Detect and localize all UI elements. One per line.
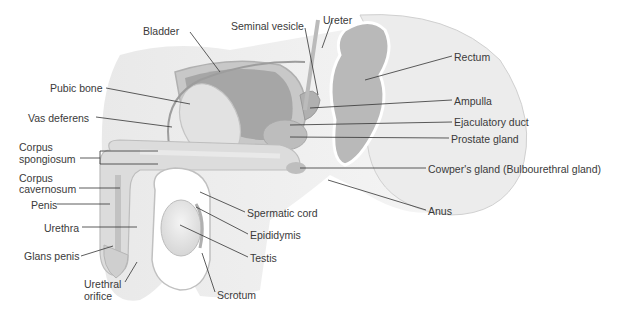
anatomy-illustration: [0, 0, 617, 314]
anatomy-diagram: Bladder Seminal vesicle Ureter Rectum Pu…: [0, 0, 617, 314]
label-rectum: Rectum: [454, 51, 490, 63]
label-ampulla: Ampulla: [454, 95, 492, 107]
label-epididymis: Epididymis: [250, 229, 301, 241]
label-scrotum: Scrotum: [217, 289, 256, 301]
label-corpus-spongiosum-line2: spongiosum: [19, 153, 76, 165]
label-anus: Anus: [428, 205, 452, 217]
testis-shape: [152, 168, 210, 290]
label-ureter: Ureter: [323, 14, 352, 26]
label-vas-deferens: Vas deferens: [28, 112, 89, 124]
label-spermatic-cord: Spermatic cord: [247, 207, 318, 219]
label-cowpers-gland: Cowper's gland (Bulbourethral gland): [428, 163, 601, 175]
label-glans-penis: Glans penis: [24, 250, 79, 262]
label-corpus-cavernosum-line2: cavernosum: [19, 183, 76, 195]
label-penis: Penis: [31, 199, 57, 211]
label-pubic-bone: Pubic bone: [50, 82, 103, 94]
label-urethral-orifice-line2: orifice: [84, 290, 112, 302]
label-bladder: Bladder: [143, 25, 179, 37]
label-prostate-gland: Prostate gland: [451, 133, 519, 145]
label-corpus-spongiosum-line1: Corpus: [19, 141, 53, 153]
label-testis: Testis: [250, 252, 277, 264]
label-urethral-orifice-line1: Urethral: [84, 278, 121, 290]
label-ejaculatory-duct: Ejaculatory duct: [454, 116, 529, 128]
label-seminal-vesicle: Seminal vesicle: [231, 20, 304, 32]
label-urethra: Urethra: [44, 222, 79, 234]
